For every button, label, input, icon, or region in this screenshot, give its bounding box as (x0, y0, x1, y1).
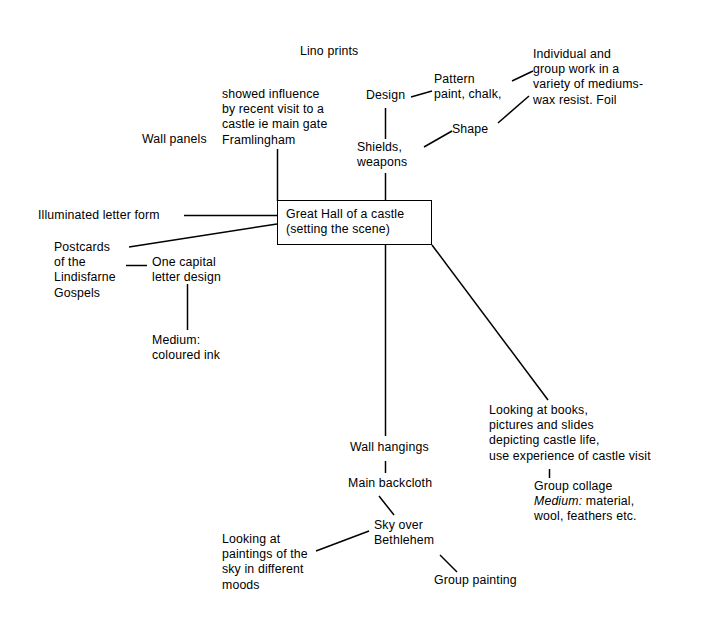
connector-postcards-to-centre (129, 224, 277, 247)
centre-node-great-hall[interactable]: Great Hall of a castle (setting the scen… (277, 200, 432, 245)
group-collage-medium-rest: material, (582, 494, 634, 508)
connector-design-to-pattern (411, 91, 432, 97)
centre-node-line-2: (setting the scene) (286, 222, 390, 237)
connector-shape-to-individual (498, 96, 529, 123)
node-wall-hangings[interactable]: Wall hangings (350, 440, 429, 455)
node-wall-panels[interactable]: Wall panels (142, 132, 207, 147)
mindmap-canvas: Lino prints showed influence by recent v… (0, 0, 705, 617)
node-medium-coloured-ink[interactable]: Medium: coloured ink (152, 333, 220, 363)
node-design[interactable]: Design (366, 88, 405, 103)
group-collage-materials: wool, feathers etc. (534, 509, 637, 523)
node-lino-prints[interactable]: Lino prints (300, 44, 358, 59)
node-group-painting[interactable]: Group painting (434, 573, 517, 588)
centre-node-line-1: Great Hall of a castle (286, 207, 404, 222)
connector-pattern-to-individual (512, 71, 533, 81)
node-illuminated-letter-form[interactable]: Illuminated letter form (38, 208, 160, 223)
node-looking-at-paintings[interactable]: Looking at paintings of the sky in diffe… (222, 532, 308, 593)
node-looking-at-books[interactable]: Looking at books, pictures and slides de… (489, 403, 651, 464)
connector-sky-to-group-painting (440, 555, 457, 572)
node-main-backcloth[interactable]: Main backcloth (348, 476, 432, 491)
connector-backcloth-to-sky (379, 496, 394, 515)
connector-shields-to-shape (424, 131, 452, 147)
group-collage-title: Group collage (534, 479, 613, 493)
connector-paintings-to-sky (316, 531, 369, 551)
node-shape[interactable]: Shape (452, 122, 488, 137)
node-sky-over-bethlehem[interactable]: Sky over Bethlehem (374, 518, 434, 548)
connector-centre-to-books (432, 245, 548, 400)
node-postcards-lindisfarne-gospels[interactable]: Postcards of the Lindisfarne Gospels (54, 240, 116, 301)
group-collage-medium-label: Medium: (534, 494, 582, 508)
node-individual-group-work[interactable]: Individual and group work in a variety o… (533, 47, 643, 108)
node-one-capital-letter-design[interactable]: One capital letter design (152, 255, 221, 285)
node-showed-influence[interactable]: showed influence by recent visit to a ca… (222, 87, 327, 148)
node-shields-weapons[interactable]: Shields, weapons (357, 140, 407, 170)
node-group-collage[interactable]: Group collageMedium: material,wool, feat… (534, 479, 637, 525)
node-pattern-paint-chalk[interactable]: Pattern paint, chalk, (434, 72, 502, 102)
